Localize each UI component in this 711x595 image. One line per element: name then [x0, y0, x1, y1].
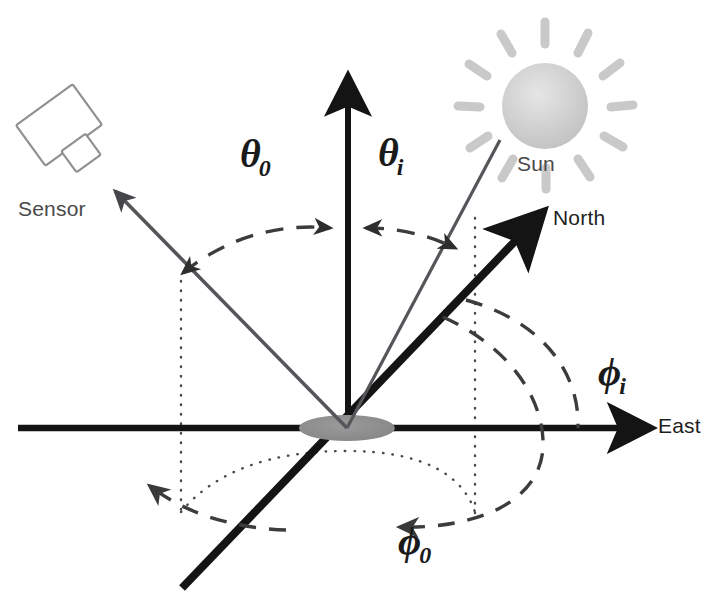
east-label: East: [658, 414, 701, 438]
theta-i-subscript: i: [397, 154, 404, 180]
phi-i-subscript: i: [619, 373, 626, 399]
phi-i-glyph: ϕ: [598, 349, 621, 394]
theta-i-label: θi: [378, 133, 405, 173]
theta-i-arc: [366, 228, 455, 248]
sun-sensor-geometry-diagram: Sensor Sun North East θ0 θi ϕi ϕ0: [0, 0, 711, 595]
sensor-icon: [16, 84, 102, 172]
diagram-canvas: [0, 0, 711, 595]
theta-zero-label: θ0: [240, 134, 273, 174]
phi-zero-glyph: ϕ: [398, 518, 421, 563]
north-label: North: [553, 206, 605, 230]
sun-label: Sun: [517, 152, 555, 176]
phi-zero-arc-left: [150, 486, 286, 530]
phi-zero-subscript: 0: [419, 542, 431, 568]
phi-zero-label: ϕ0: [398, 521, 433, 561]
theta-zero-glyph: θ: [240, 131, 261, 176]
theta-zero-arc: [183, 227, 330, 273]
phi-i-label: ϕi: [598, 352, 628, 392]
theta-zero-subscript: 0: [259, 155, 271, 181]
phi-i-arc: [466, 300, 578, 428]
phi-zero-arc: [400, 317, 543, 527]
projection-lines: [181, 218, 475, 520]
sensor-label: Sensor: [18, 197, 86, 221]
theta-i-glyph: θ: [378, 130, 399, 175]
